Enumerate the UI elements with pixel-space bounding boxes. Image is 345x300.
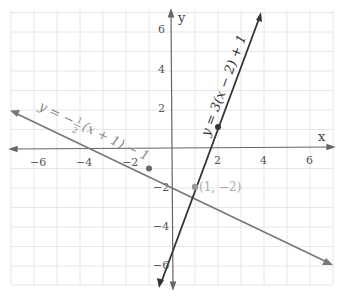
tick-x-2: 2 <box>214 154 221 167</box>
y-axis-label: y <box>177 10 186 25</box>
svg-text:1: 1 <box>75 115 83 125</box>
y-axis-down-arrow-icon <box>171 282 176 289</box>
y-axis-up-arrow-icon <box>169 10 174 17</box>
tick-x-neg4: −4 <box>76 156 92 169</box>
line2-equation-label: y = − 1 2 (x + 1) − 1 <box>34 98 152 168</box>
intersection-point <box>192 184 198 190</box>
tick-y-2: 2 <box>158 102 165 115</box>
tick-x-6: 6 <box>306 154 313 167</box>
tick-y-4: 4 <box>158 63 165 76</box>
tick-y-neg4: −4 <box>153 220 169 233</box>
tick-x-neg6: −6 <box>30 156 46 169</box>
coordinate-plane: x y −6 −4 −2 2 4 6 6 4 2 −2 −4 −6 (1, −2… <box>0 0 345 300</box>
tick-y-6: 6 <box>158 23 165 36</box>
svg-text:y = −: y = − <box>36 98 77 128</box>
line2-right-arrow-icon <box>322 258 333 265</box>
intersection-label: (1, −2) <box>199 180 241 194</box>
line1-equation-label: y = 3(x − 2) + 1 <box>197 32 249 139</box>
point-neg1-neg1 <box>146 166 152 172</box>
tick-x-4: 4 <box>260 154 267 167</box>
line1-up-arrow-icon <box>256 12 262 22</box>
svg-text:2: 2 <box>71 125 79 135</box>
x-axis-label: x <box>318 129 326 144</box>
